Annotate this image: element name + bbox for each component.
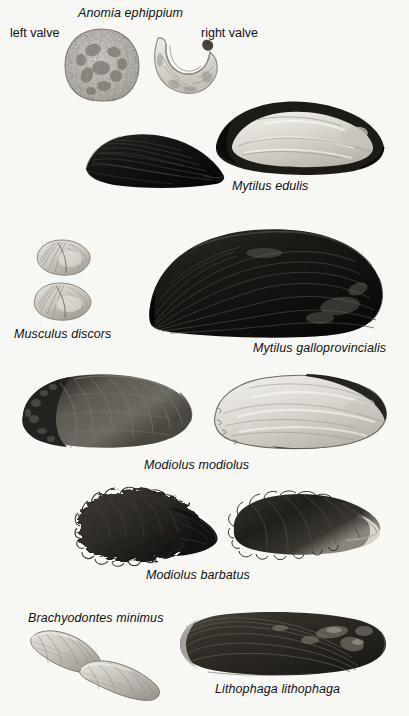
label-lithophaga-lithophaga: Lithophaga lithophaga <box>215 682 340 696</box>
specimen-modiolus-modiolus-exterior <box>20 371 194 451</box>
specimen-musculus-discors-lower <box>31 282 93 322</box>
label-modiolus-barbatus: Modiolus barbatus <box>146 568 250 582</box>
label-brachyodontes-minimus: Brachyodontes minimus <box>28 611 164 625</box>
label-anomia-ephippium: Anomia ephippium <box>78 6 183 20</box>
specimen-brachyodontes-minimus-lower <box>76 658 164 704</box>
specimen-modiolus-barbatus-right <box>226 490 384 560</box>
label-mytilus-edulis: Mytilus edulis <box>232 179 308 193</box>
shell-plate-figure: Anomia ephippium left valve right valve … <box>0 0 409 716</box>
specimen-mytilus-edulis-interior <box>204 98 386 176</box>
specimen-modiolus-barbatus-bristly <box>74 486 226 564</box>
label-musculus-discors: Musculus discors <box>14 327 111 341</box>
specimen-lithophaga-lithophaga <box>176 610 388 678</box>
label-mytilus-galloprovincialis: Mytilus galloprovincialis <box>253 341 386 355</box>
label-left-valve: left valve <box>10 26 59 40</box>
specimen-anomia-left-valve <box>64 28 140 102</box>
label-right-valve: right valve <box>201 26 258 40</box>
specimen-modiolus-modiolus-interior <box>211 372 389 452</box>
specimen-musculus-discors-upper <box>34 239 92 277</box>
label-modiolus-modiolus: Modiolus modiolus <box>144 458 249 472</box>
specimen-mytilus-galloprovincialis <box>144 226 386 342</box>
specimen-anomia-right-valve <box>150 32 220 96</box>
